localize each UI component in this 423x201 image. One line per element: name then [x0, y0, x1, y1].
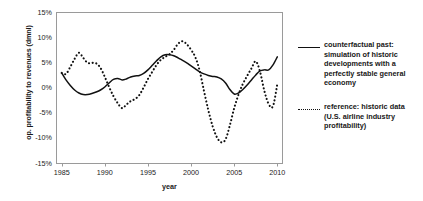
dotted-line-sample-icon	[298, 106, 320, 114]
x-axis-title: year	[56, 182, 283, 191]
chart-figure: op. profitability to revenues (dmnl) 15%…	[0, 0, 423, 201]
x-tick-label: 1995	[128, 169, 168, 177]
x-tick-label: 2000	[171, 169, 211, 177]
x-tick-label: 2005	[214, 169, 254, 177]
x-tick-label: 2010	[257, 169, 297, 177]
x-tick-label: 1990	[85, 169, 125, 177]
legend-label-counterfactual: counterfactual past: simulation of histo…	[324, 40, 423, 88]
legend-label-reference: reference: historic data (U.S. airline i…	[324, 102, 423, 131]
legend-entry-counterfactual: counterfactual past: simulation of histo…	[298, 40, 423, 88]
legend-entry-reference: reference: historic data (U.S. airline i…	[298, 102, 423, 131]
chart-legend: counterfactual past: simulation of histo…	[298, 40, 423, 145]
x-tick-label: 1985	[42, 169, 82, 177]
solid-line-sample-icon	[298, 44, 320, 52]
